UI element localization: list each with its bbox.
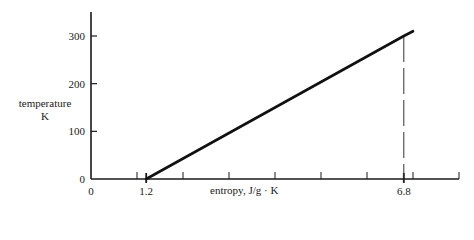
y-tick-label: 100 xyxy=(69,125,86,137)
data-series xyxy=(146,31,413,179)
x-tick-label: 1.2 xyxy=(139,185,153,197)
y-axis-label-unit: K xyxy=(10,110,80,123)
y-axis-label: temperature K xyxy=(10,97,80,123)
x-tick-label: 0 xyxy=(88,185,94,197)
x-tick-label: 6.8 xyxy=(397,185,411,197)
x-axis-label: entropy, J/g · K xyxy=(210,184,278,196)
x-ticks xyxy=(137,172,459,183)
y-tick-label: 0 xyxy=(80,173,86,185)
y-axis-label-title: temperature xyxy=(10,97,80,110)
y-tick-label: 300 xyxy=(69,30,86,42)
y-tick-label: 200 xyxy=(69,78,86,90)
series-line xyxy=(146,31,413,179)
